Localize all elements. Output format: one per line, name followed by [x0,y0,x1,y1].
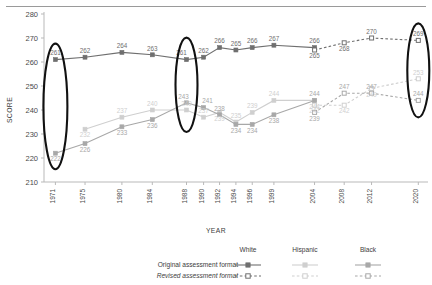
data-point-label: 238 [214,105,225,112]
data-point-label: 239 [309,115,320,122]
data-point-label: 253 [413,69,424,76]
y-tick-label: 250 [25,82,38,91]
x-tick-label: 2004 [309,189,316,204]
legend-column-hispanic: Hispanic [292,246,318,254]
x-tick-label: 2012 [366,189,373,204]
data-point-marker [416,77,420,81]
data-point-marker [120,50,124,54]
y-tick-label: 260 [25,58,38,67]
x-tick-label: 1992 [214,189,221,204]
x-axis-title: YEAR [206,227,226,234]
y-tick-label: 230 [25,130,38,139]
data-point-label: 242 [339,107,350,114]
data-point-label: 234 [231,127,242,134]
data-point-marker [272,98,276,102]
data-point-marker [120,115,124,119]
data-point-marker [150,108,154,112]
y-tick-label: 210 [25,178,38,187]
x-tick-label: 1994 [230,189,237,204]
x-tick-label: 1975 [79,189,86,204]
y-tick-label: 240 [25,106,38,115]
data-point-marker [250,46,254,50]
x-tick-label: 1996 [246,189,253,204]
data-point-marker [150,53,154,57]
data-point-marker [202,115,206,119]
data-point-label: 238 [269,117,280,124]
data-point-label: 266 [214,37,225,44]
data-point-label: 269 [413,30,424,37]
data-point-label: 240 [147,100,158,107]
data-point-label: 244 [269,90,280,97]
data-point-label: 261 [50,49,61,56]
x-tick-labels: 1971197519801984198819901992199419961999… [49,182,419,203]
legend: WhiteHispanicBlackOriginal assessment fo… [157,246,381,279]
data-point-label: 237 [198,107,209,114]
x-tick-label: 1990 [198,189,205,204]
y-tick-label: 280 [25,10,38,19]
data-point-marker [250,110,254,114]
data-point-marker [83,55,87,59]
data-point-marker [416,98,420,102]
data-point-label: 267 [269,35,280,42]
legend-column-black: Black [360,246,377,253]
legend-swatch-marker-white [246,274,250,278]
data-point-label: 244 [413,90,424,97]
data-point-label: 266 [309,37,320,44]
data-point-label: 244 [309,90,320,97]
data-point-label: 265 [231,40,242,47]
x-tick-label: 1988 [181,189,188,204]
x-tick-label: 1971 [49,189,56,204]
data-point-label: 249 [366,91,377,98]
series-line-white-revised [315,38,419,50]
data-point-marker [342,91,346,95]
data-point-label: 242 [309,107,320,114]
x-tick-label: 2020 [412,189,419,204]
series-line-hispanic-original [85,100,315,129]
data-point-marker [272,43,276,47]
data-point-label: 263 [147,45,158,52]
data-point-label: 222 [50,155,61,162]
y-tick-labels: 280270260250240230220210 [25,10,44,187]
data-point-label: 268 [339,45,350,52]
data-point-marker [218,46,222,50]
data-point-label: 270 [366,28,377,35]
y-tick-label: 220 [25,154,38,163]
data-point-label: 236 [147,122,158,129]
legend-swatch-marker-black [366,263,370,267]
legend-swatch-marker-hispanic [303,274,307,278]
data-point-label: 239 [214,115,225,122]
data-point-label: 232 [80,131,91,138]
data-point-marker [185,58,189,62]
x-tick-label: 1984 [146,189,153,204]
data-series-group [53,36,420,155]
highlight-oval-1971 [43,44,67,170]
data-point-label: 241 [202,97,213,104]
data-point-marker [185,108,189,112]
data-point-label: 239 [247,102,258,109]
y-tick-label: 270 [25,34,38,43]
y-axis-title: SCORE [6,97,13,123]
data-point-label: 266 [247,37,258,44]
data-point-label: 247 [366,83,377,90]
data-point-label: 262 [80,47,91,54]
data-point-label: 265 [309,52,320,59]
legend-column-white: White [240,246,257,253]
data-point-marker [416,38,420,42]
data-point-label: 233 [117,129,128,136]
data-point-label: 237 [117,107,128,114]
x-tick-label: 2008 [338,189,345,204]
line-chart: 280270260250240230220210 197119751980198… [0,0,432,285]
data-point-marker [53,58,57,62]
data-point-label: 240 [181,100,192,107]
data-point-label: 226 [80,146,91,153]
data-point-marker [202,55,206,59]
data-point-marker [370,36,374,40]
data-point-label: 262 [198,47,209,54]
x-tick-label: 1999 [268,189,275,204]
data-point-label: 247 [339,83,350,90]
legend-row-label-revised: Revised assessment format [157,272,240,279]
legend-swatch-marker-hispanic [303,263,307,267]
x-tick-label: 1980 [116,189,123,204]
data-point-label: 243 [178,93,189,100]
data-point-label: 264 [117,42,128,49]
